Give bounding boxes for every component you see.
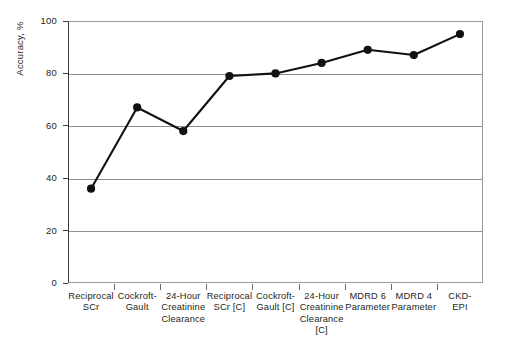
- chart-figure: Accuracy, % 020406080100 ReciprocalSCrCo…: [0, 0, 506, 349]
- x-axis-tick: [299, 284, 300, 290]
- y-axis-tick-label: 100: [27, 15, 57, 26]
- y-axis-tick-label: 80: [27, 67, 57, 78]
- x-axis-category-label: Cockroft-Gault [C]: [249, 291, 301, 314]
- x-axis-tick: [252, 284, 253, 290]
- x-axis-category-label: MDRD 6Parameter: [342, 291, 394, 314]
- data-point: [225, 72, 233, 80]
- data-series: [68, 21, 483, 283]
- x-axis-tick: [114, 284, 115, 290]
- x-axis-category-label: MDRD 4Parameter: [388, 291, 440, 314]
- data-point: [456, 30, 464, 38]
- y-axis-tick-label: 40: [27, 172, 57, 183]
- x-axis-category-label: 24-HourCreatinineClearance [C]: [296, 291, 348, 337]
- x-axis-category-label: CKD-EPI: [434, 291, 486, 314]
- data-point: [133, 103, 141, 111]
- x-axis-category-label: ReciprocalSCr [C]: [203, 291, 255, 314]
- y-axis-tick-label: 20: [27, 225, 57, 236]
- x-axis-tick: [160, 284, 161, 290]
- x-axis-tick: [345, 284, 346, 290]
- x-axis-category-label: ReciprocalSCr: [65, 291, 117, 314]
- data-point: [410, 51, 418, 59]
- data-point: [271, 69, 279, 77]
- data-point: [318, 59, 326, 67]
- x-axis-category-label: Cockroft-Gault: [111, 291, 163, 314]
- data-point: [87, 185, 95, 193]
- accuracy-line: [91, 34, 460, 189]
- y-axis-tick-label: 0: [27, 277, 57, 288]
- data-point: [179, 127, 187, 135]
- x-axis-tick: [391, 284, 392, 290]
- x-axis-tick: [206, 284, 207, 290]
- x-axis-tick: [437, 284, 438, 290]
- x-axis-category-label: 24-HourCreatinineClearance: [157, 291, 209, 325]
- y-axis-title: Accuracy, %: [14, 0, 34, 190]
- data-point: [364, 46, 372, 54]
- y-axis-tick-label: 60: [27, 120, 57, 131]
